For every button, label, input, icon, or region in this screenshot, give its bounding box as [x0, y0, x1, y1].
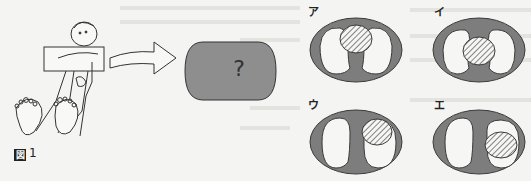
figure-label: 図1	[14, 146, 37, 161]
figure-label-number: 1	[29, 146, 37, 160]
option-a-cross-section[interactable]	[308, 16, 404, 84]
option-u-cross-section[interactable]	[308, 108, 404, 176]
option-e-cross-section[interactable]	[431, 108, 527, 176]
curved-arrow-icon	[108, 40, 178, 76]
chest-box	[44, 47, 104, 71]
figure-label-prefix: 図	[14, 149, 26, 161]
option-i-cross-section[interactable]	[431, 16, 527, 84]
question-mark: ?	[219, 56, 259, 81]
